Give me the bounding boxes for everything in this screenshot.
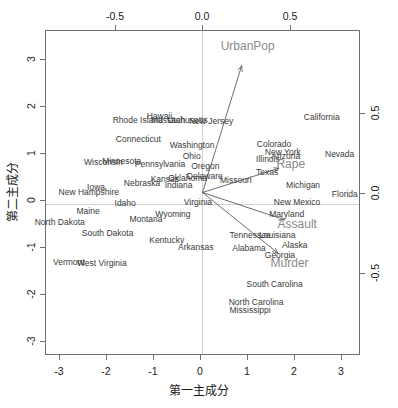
tick-bottom (153, 355, 154, 360)
tick-left (40, 59, 45, 60)
state-label: Florida (332, 190, 358, 199)
tick-left (40, 341, 45, 342)
state-label: New Hampshire (59, 187, 119, 196)
y-axis-title: 第二主成分 (3, 162, 20, 222)
x-tick-label: -2 (101, 365, 110, 377)
y-right-tick-label: 0.5 (369, 106, 381, 121)
state-label: North Carolina (229, 298, 284, 307)
state-label: New York (265, 148, 301, 157)
state-label: Alabama (232, 244, 266, 253)
tick-left (40, 294, 45, 295)
tick-bottom (200, 355, 201, 360)
y-tick-label: -2 (25, 289, 37, 298)
tick-top (202, 25, 203, 30)
y-tick-label: 3 (25, 56, 37, 62)
state-label: Missouri (220, 175, 252, 184)
y-tick-label: 1 (25, 150, 37, 156)
state-label: North Dakota (35, 218, 85, 227)
variable-label: Murder (271, 257, 309, 269)
state-label: Washington (170, 140, 215, 149)
x-top-tick-label: 0.0 (195, 10, 210, 22)
y-right-tick-label: 0.0 (369, 186, 381, 201)
variable-label: UrbanPop (221, 40, 275, 52)
tick-bottom (294, 355, 295, 360)
state-label: Nevada (325, 150, 354, 159)
tick-bottom (341, 355, 342, 360)
state-label: Oregon (191, 162, 219, 171)
tick-bottom (106, 355, 107, 360)
variable-label: Rape (276, 158, 305, 170)
tick-right (360, 193, 365, 194)
state-label: West Virginia (77, 258, 127, 267)
state-label: Alaska (282, 241, 308, 250)
x-tick-label: 3 (338, 365, 344, 377)
x-axis-title: 第一主成分 (169, 381, 229, 398)
state-label: Virginia (184, 198, 212, 207)
state-label: Wisconsin (84, 158, 123, 167)
tick-top (290, 25, 291, 30)
variable-label: Assault (278, 218, 317, 230)
tick-left (40, 247, 45, 248)
tick-left (40, 106, 45, 107)
y-tick-label: 0 (25, 197, 37, 203)
state-label: Nebraska (124, 179, 160, 188)
state-label: Tennessee (230, 231, 271, 240)
tick-top (115, 25, 116, 30)
x-tick-label: 2 (291, 365, 297, 377)
state-label: Rhode Island (113, 115, 163, 124)
state-label: Pennsylvania (135, 160, 186, 169)
tick-right (360, 113, 365, 114)
biplot-screenshot: -3 -2 -1 0 1 2 3 -3 -2 -1 0 1 2 3 -0.5 0… (0, 0, 398, 408)
tick-bottom (247, 355, 248, 360)
y-tick-label: -3 (25, 336, 37, 345)
state-label: Idaho (115, 199, 136, 208)
state-label: Maine (77, 207, 100, 216)
tick-left (40, 153, 45, 154)
state-label: California (304, 113, 340, 122)
state-label: Kentucky (149, 235, 184, 244)
state-label: Mississippi (230, 306, 271, 315)
tick-bottom (59, 355, 60, 360)
state-label: South Dakota (82, 229, 134, 238)
y-tick-label: 2 (25, 103, 37, 109)
state-label: South Carolina (247, 280, 303, 289)
x-tick-label: -3 (54, 365, 63, 377)
x-tick-label: 0 (197, 365, 203, 377)
state-label: New Jersey (189, 117, 233, 126)
x-tick-label: 1 (244, 365, 250, 377)
x-top-tick-label: 0.5 (283, 10, 298, 22)
state-label: Michigan (286, 181, 320, 190)
state-label: Oklahoma (168, 174, 207, 183)
x-tick-label: -1 (148, 365, 157, 377)
x-top-tick-label: -0.5 (106, 10, 124, 22)
y-tick-label: -1 (25, 242, 37, 251)
state-label: Connecticut (116, 135, 161, 144)
state-label: Wyoming (155, 210, 190, 219)
state-label: New Mexico (274, 198, 320, 207)
state-label: Texas (256, 168, 278, 177)
y-right-tick-label: -0.5 (369, 264, 381, 282)
state-label: Utah (167, 116, 185, 125)
tick-left (40, 200, 45, 201)
tick-right (360, 273, 365, 274)
